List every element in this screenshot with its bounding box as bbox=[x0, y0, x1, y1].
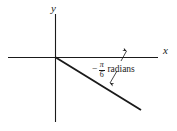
minus-sign: − bbox=[92, 65, 97, 75]
fraction-denominator-six: 6 bbox=[99, 71, 105, 80]
y-axis-label: y bbox=[50, 2, 56, 14]
x-axis-label: x bbox=[162, 44, 168, 56]
angle-measure-annotation: − π 6 radians bbox=[92, 61, 135, 79]
pi-over-six-fraction: π 6 bbox=[99, 61, 105, 79]
angle-diagram-figure: y x − π 6 radians bbox=[0, 0, 177, 131]
fraction-numerator-pi: π bbox=[99, 61, 105, 70]
leader-line-to-x-axis bbox=[121, 51, 127, 61]
coordinate-plane-svg: y x bbox=[0, 0, 177, 131]
radians-unit-label: radians bbox=[107, 65, 134, 75]
